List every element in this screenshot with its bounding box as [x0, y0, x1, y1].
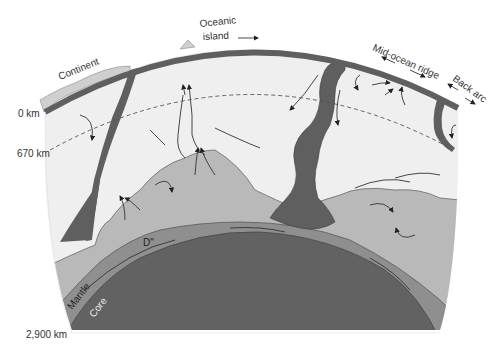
oceanic-island	[180, 40, 195, 49]
label-depth-670: 670 km	[17, 148, 50, 159]
label-depth-0: 0 km	[18, 108, 40, 119]
label-oceanic-island-line1: Oceanic	[199, 14, 237, 29]
label-depth-2900: 2,900 km	[26, 329, 67, 340]
label-oceanic-island-line2: island	[203, 30, 230, 42]
label-d-double-prime: D"	[143, 237, 154, 248]
mantle-convection-diagram: Oceanic island Continent Mid-ocean ridge…	[0, 0, 503, 354]
